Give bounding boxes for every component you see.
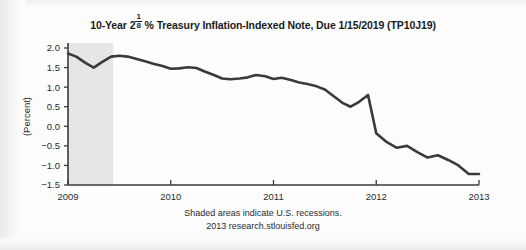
x-tick-label: 2013 [468, 191, 489, 202]
data-series-line [68, 53, 479, 174]
y-tick-label: −1.5 [41, 179, 60, 190]
y-tick-label: 0.5 [47, 101, 60, 112]
x-tick-label: 2009 [57, 191, 78, 202]
y-tick-label: −1.0 [41, 160, 60, 171]
axis-lines [68, 43, 479, 185]
recession-footnote: Shaded areas indicate U.S. recessions. [0, 208, 526, 218]
x-axis-ticks: 20092010201120122013 [57, 180, 489, 202]
y-axis-title-label: (Percent) [21, 97, 32, 136]
recession-shading-group [68, 43, 113, 185]
y-axis-title: (Percent) [21, 97, 32, 136]
chart-figure: 10-Year 218 % Treasury Inflation-Indexed… [0, 0, 526, 250]
y-tick-label: 2.0 [47, 42, 60, 53]
y-axis-ticks: 2.01.51.00.50.0−0.5−1.0−1.5 [41, 42, 68, 190]
y-tick-label: −0.5 [41, 140, 60, 151]
recession-shading [68, 43, 113, 185]
y-tick-label: 0.0 [47, 121, 60, 132]
x-tick-label: 2010 [160, 191, 181, 202]
series-line-tp10j19 [68, 53, 479, 174]
x-tick-label: 2012 [366, 191, 387, 202]
y-tick-label: 1.0 [47, 82, 60, 93]
source-footnote: 2013 research.stlouisfed.org [0, 221, 526, 231]
y-tick-label: 1.5 [47, 62, 60, 73]
x-tick-label: 2011 [263, 191, 283, 202]
